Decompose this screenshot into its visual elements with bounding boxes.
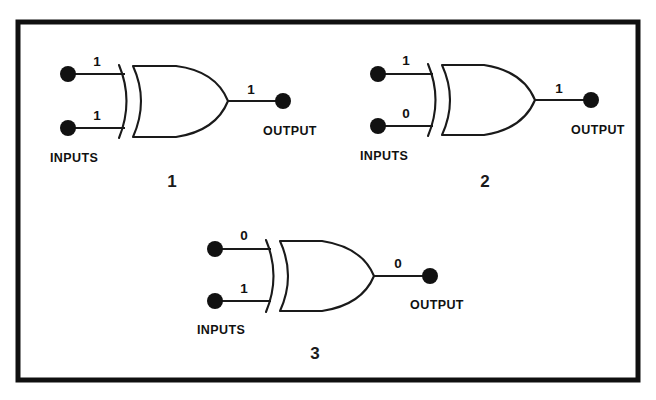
gate-1-input-a-terminal xyxy=(60,66,76,82)
gate-1-input-a-value: 1 xyxy=(93,54,101,69)
gate-2-output-terminal xyxy=(583,92,599,108)
gate-3-input-b-terminal xyxy=(207,293,223,309)
gate-group-2: 1 0 1 INPUTS OUTPUT 2 xyxy=(360,53,625,191)
gate-2-body xyxy=(442,65,535,135)
gate-1-body xyxy=(133,66,228,137)
gate-3-inputs-label: INPUTS xyxy=(197,323,245,337)
gate-group-3: 0 1 0 INPUTS OUTPUT 3 xyxy=(197,228,464,363)
gate-2-input-a-value: 1 xyxy=(402,53,410,68)
gate-2-input-b-terminal xyxy=(370,118,386,134)
gate-3-figure-number: 3 xyxy=(310,344,319,363)
diagram-border xyxy=(18,22,638,380)
gate-1-output-terminal xyxy=(275,93,291,109)
gate-1-figure-number: 1 xyxy=(167,172,176,191)
gate-1-input-b-value: 1 xyxy=(93,108,101,123)
gate-3-input-a-value: 0 xyxy=(240,228,248,243)
gate-1-input-b-terminal xyxy=(60,120,76,136)
gate-2-input-b-value: 0 xyxy=(402,106,410,121)
gate-3-body xyxy=(280,241,374,311)
gate-3-output-value: 0 xyxy=(394,256,402,271)
gate-2-output-value: 1 xyxy=(555,81,563,96)
gate-group-1: 1 1 1 INPUTS OUTPUT 1 xyxy=(50,54,317,191)
gate-3-output-terminal xyxy=(422,268,438,284)
gate-3-output-label: OUTPUT xyxy=(410,298,464,312)
xor-gate-diagram: 1 1 1 INPUTS OUTPUT 1 1 0 1 INPUTS OUTPU… xyxy=(0,0,656,400)
gate-2-output-label: OUTPUT xyxy=(571,123,625,137)
gate-1-output-value: 1 xyxy=(247,82,255,97)
gate-2-input-a-terminal xyxy=(370,66,386,82)
gate-1-output-label: OUTPUT xyxy=(263,124,317,138)
gate-1-inputs-label: INPUTS xyxy=(50,151,98,165)
diagram-canvas: 1 1 1 INPUTS OUTPUT 1 1 0 1 INPUTS OUTPU… xyxy=(0,0,656,400)
gate-2-figure-number: 2 xyxy=(480,172,489,191)
gate-2-inputs-label: INPUTS xyxy=(360,149,408,163)
gate-3-input-a-terminal xyxy=(207,241,223,257)
gate-3-input-b-value: 1 xyxy=(240,281,248,296)
